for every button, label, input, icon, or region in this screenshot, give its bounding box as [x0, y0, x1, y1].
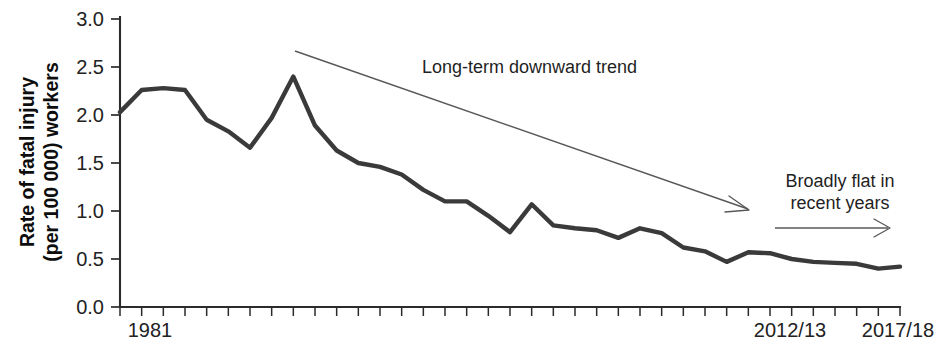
fatal-injury-rate-chart: 0.00.51.01.52.02.53.0 1981 2012/13 2017/…: [0, 0, 943, 358]
broadly-flat-label-line1: Broadly flat in: [785, 171, 894, 191]
y-tick-label: 1.0: [76, 200, 104, 222]
y-tick-label: 0.0: [76, 296, 104, 318]
y-tick-label: 2.0: [76, 104, 104, 126]
y-tick-label: 2.5: [76, 56, 104, 78]
y-tick-label: 1.5: [76, 152, 104, 174]
broadly-flat-label-line2: recent years: [790, 193, 889, 213]
long-term-trend-label: Long-term downward trend: [422, 57, 637, 77]
chart-canvas: 0.00.51.01.52.02.53.0 1981 2012/13 2017/…: [0, 0, 943, 358]
x-axis-label-mid: 2012/13: [754, 319, 826, 341]
x-axis-label-end: 2017/18: [862, 319, 934, 341]
y-tick-label: 0.5: [76, 248, 104, 270]
y-tick-label: 3.0: [76, 8, 104, 30]
x-axis-label-start: 1981: [128, 319, 173, 341]
y-axis-title-line2: (per 100 000) workers: [40, 62, 62, 262]
y-axis-title-line1: Rate of fatal injury: [16, 77, 38, 247]
